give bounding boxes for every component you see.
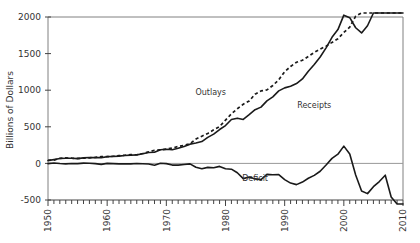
budget-line-chart: -5000500100015002000 1950196019701980199…	[0, 0, 420, 243]
series-line-deficit	[48, 146, 403, 204]
annotation-outlays: Outlays	[195, 88, 226, 97]
series-annotations: OutlaysReceiptsDeficit	[195, 88, 331, 183]
y-tick-label: 0	[35, 159, 41, 169]
y-axis-tick-labels: -5000500100015002000	[18, 12, 41, 205]
data-series-group	[48, 13, 403, 204]
x-tick-label: 1970	[162, 209, 172, 232]
x-tick-label: 1980	[221, 209, 231, 232]
x-tick-label: 1960	[102, 209, 112, 232]
x-tick-label: 2010	[398, 209, 408, 232]
x-axis-ticks	[48, 200, 403, 206]
x-tick-label: 1950	[43, 209, 53, 232]
annotation-deficit: Deficit	[242, 174, 268, 183]
y-tick-label: 2000	[18, 12, 41, 22]
y-axis-title: Billions of Dollars	[5, 71, 15, 149]
y-tick-label: 500	[24, 122, 41, 132]
x-tick-label: 2000	[339, 209, 349, 232]
series-line-outlays	[48, 13, 403, 160]
y-tick-label: 1500	[18, 49, 41, 59]
x-tick-label: 1990	[280, 209, 290, 232]
plot-frame	[48, 17, 403, 200]
y-tick-label: -500	[21, 195, 42, 205]
x-axis-tick-labels: 1950196019701980199020002010	[43, 209, 408, 232]
y-tick-label: 1000	[18, 85, 41, 95]
chart-container: -5000500100015002000 1950196019701980199…	[0, 0, 420, 243]
annotation-receipts: Receipts	[297, 101, 331, 110]
plot-border	[48, 17, 403, 200]
series-line-receipts	[48, 13, 403, 161]
